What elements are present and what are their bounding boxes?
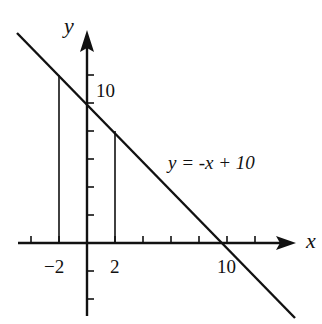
x-tick-label-10: 10 [217,256,236,277]
graph-figure: y x 10 −2 2 10 y = -x + 10 [0,0,322,324]
x-tick-label-neg2: −2 [44,256,64,277]
graph-canvas: y x 10 −2 2 10 y = -x + 10 [0,0,322,324]
y-tick-label-10: 10 [96,80,115,101]
equation-label: y = -x + 10 [166,152,255,173]
y-axis-label: y [62,13,74,38]
x-tick-label-2: 2 [110,256,120,277]
x-axis-label: x [305,228,316,253]
y-axis [80,30,94,316]
